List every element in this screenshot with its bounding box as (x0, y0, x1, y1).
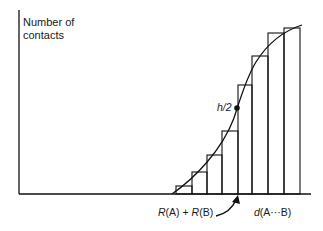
sum-radii-label: R(A) + R(B) (158, 206, 213, 218)
half-height-point (234, 105, 240, 111)
arrow-to-radii-sum (216, 200, 236, 216)
y-axis-label-line2: contacts (23, 29, 74, 42)
distance-label: d(A···B) (254, 206, 291, 218)
bar-3 (207, 155, 222, 194)
bar-6 (252, 56, 268, 194)
y-axis-label: Number of contacts (23, 16, 74, 42)
bar-7 (268, 33, 284, 194)
arrow-head-icon (232, 195, 240, 204)
y-axis-label-line1: Number of (23, 16, 74, 29)
histogram-bars (176, 28, 300, 194)
half-height-label: h/2 (217, 101, 232, 113)
bar-8 (284, 28, 300, 194)
bar-4 (222, 131, 238, 194)
